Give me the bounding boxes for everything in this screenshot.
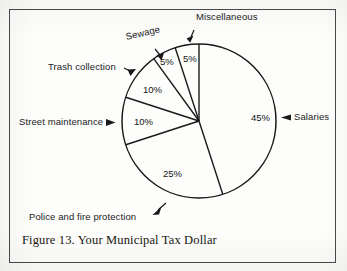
arrow-trash-collection	[124, 68, 136, 76]
arrow-police-fire	[153, 203, 167, 215]
percent-police-fire: 25%	[163, 169, 182, 179]
arrow-miscellaneous	[187, 30, 195, 43]
slice-divider-salaries-police	[199, 121, 223, 194]
arrow-salaries	[281, 115, 291, 121]
label-salaries: Salaries	[294, 112, 329, 122]
figure-caption: Figure 13. Your Municipal Tax Dollar	[22, 233, 217, 248]
figure-page: Miscellaneous Sewage Trash collection St…	[0, 0, 347, 271]
label-police-fire: Police and fire protection	[29, 212, 136, 222]
percent-trash-collection: 10%	[143, 85, 162, 95]
percent-salaries: 45%	[251, 113, 270, 123]
percent-street-maintenance: 10%	[134, 117, 153, 127]
percent-sewage: 5%	[160, 57, 174, 67]
pie-chart	[0, 0, 347, 271]
label-miscellaneous: Miscellaneous	[196, 12, 258, 22]
percent-miscellaneous: 5%	[183, 54, 197, 64]
label-trash-collection: Trash collection	[48, 62, 116, 72]
arrow-street-maintenance	[106, 119, 116, 126]
label-street-maintenance: Street maintenance	[19, 117, 103, 127]
